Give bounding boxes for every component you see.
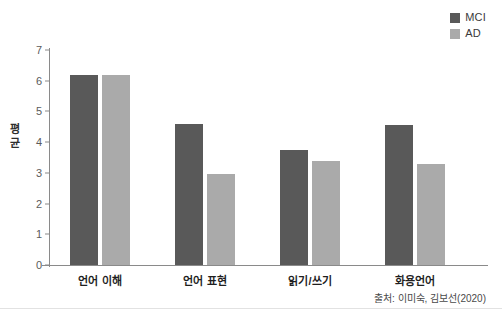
- y-axis-tick-mark: [45, 265, 49, 266]
- x-axis-line: [42, 265, 488, 266]
- bar-mci-1: [70, 75, 98, 265]
- legend-label-ad: AD: [465, 28, 481, 39]
- y-axis-tick-label: 6: [36, 75, 42, 87]
- y-axis-title-char-2: 균: [8, 136, 22, 150]
- plot-area: 01234567: [49, 50, 486, 265]
- y-axis-tick-mark: [45, 80, 49, 81]
- bar-ad-3: [312, 161, 340, 265]
- legend-label-mci: MCI: [465, 12, 486, 23]
- y-axis-tick-mark: [45, 50, 49, 51]
- y-axis-tick-mark: [45, 111, 49, 112]
- source-note: 출처: 이미숙, 김보선(2020): [374, 290, 486, 305]
- bar-ad-4: [417, 164, 445, 265]
- y-axis-tick-label: 5: [36, 105, 42, 117]
- x-axis-category-label: 읽기/쓰기: [288, 272, 331, 288]
- chart-legend: MCI AD: [450, 12, 486, 39]
- y-axis-tick-mark: [45, 203, 49, 204]
- bar-ad-2: [207, 174, 235, 265]
- legend-swatch-mci: [450, 13, 460, 23]
- x-axis-category-label: 언어 표현: [183, 272, 226, 288]
- legend-item-ad: AD: [450, 28, 481, 39]
- x-axis-category-label: 언어 이해: [78, 272, 121, 288]
- y-axis-tick-label: 0: [36, 259, 42, 271]
- y-axis-tick-mark: [45, 142, 49, 143]
- bottom-divider: [0, 308, 502, 309]
- y-axis-title-char-1: 평: [8, 122, 22, 136]
- y-axis-tick-label: 7: [36, 44, 42, 56]
- x-axis-category-label: 화용언어: [395, 272, 435, 288]
- y-axis-tick-mark: [45, 234, 49, 235]
- bar-mci-2: [175, 124, 203, 265]
- y-axis-title: 평 균: [8, 122, 22, 150]
- bar-mci-3: [280, 150, 308, 265]
- legend-swatch-ad: [450, 29, 460, 39]
- legend-item-mci: MCI: [450, 12, 486, 23]
- y-axis-tick-label: 4: [36, 136, 42, 148]
- y-axis-tick-label: 2: [36, 198, 42, 210]
- bar-ad-1: [102, 75, 130, 265]
- bar-chart-figure: MCI AD 평 균 01234567 언어 이해언어 표현읽기/쓰기화용언어 …: [0, 0, 502, 316]
- y-axis-tick-label: 1: [36, 228, 42, 240]
- y-axis-tick-mark: [45, 172, 49, 173]
- bar-mci-4: [385, 125, 413, 265]
- y-axis-tick-label: 3: [36, 167, 42, 179]
